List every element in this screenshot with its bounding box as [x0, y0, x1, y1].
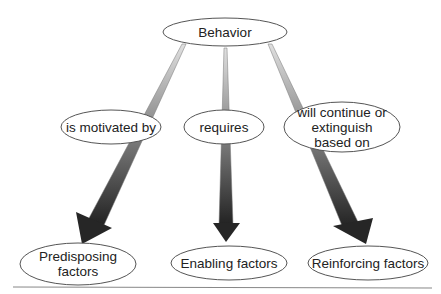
connector-requires: requires	[184, 110, 264, 144]
target-predisposing-line-2: factors	[58, 264, 99, 279]
target-predisposing: Predisposing factors	[20, 243, 136, 285]
target-reinforcing: Reinforcing factors	[308, 246, 428, 280]
connector-continue-line-2: extinguish	[312, 120, 373, 135]
arrow-to-predisposing	[76, 44, 186, 244]
target-enabling: Enabling factors	[171, 246, 287, 280]
connector-continue: will continue or extinguish based on	[284, 102, 400, 152]
connector-requires-label: requires	[200, 120, 249, 135]
target-enabling-label: Enabling factors	[181, 256, 278, 271]
bottom-rule	[13, 287, 432, 288]
target-predisposing-line-1: Predisposing	[39, 249, 117, 264]
arrow-to-enabling	[213, 48, 240, 242]
connector-motivated: is motivated by	[61, 110, 161, 144]
connector-motivated-label: is motivated by	[66, 120, 156, 135]
behavior-label: Behavior	[198, 25, 251, 40]
connector-continue-line-1: will continue or	[297, 105, 386, 120]
behavior-node: Behavior	[163, 18, 287, 46]
connector-continue-line-3: based on	[314, 135, 370, 150]
target-reinforcing-label: Reinforcing factors	[312, 256, 425, 271]
